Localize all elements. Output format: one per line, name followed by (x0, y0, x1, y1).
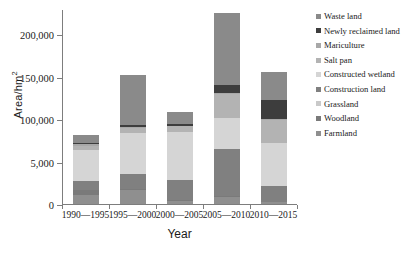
legend-item-label: Woodland (324, 114, 359, 123)
legend-item[interactable]: Farmland (316, 126, 413, 141)
legend-item[interactable]: Construction land (316, 82, 413, 97)
legend-swatch-icon (316, 58, 321, 63)
bar-segment[interactable] (73, 181, 99, 190)
bar-segment[interactable] (120, 75, 146, 125)
legend-item-label: Mariculture (324, 41, 365, 50)
x-axis-tick (203, 205, 204, 209)
bar-segment[interactable] (214, 118, 240, 149)
x-axis-tick-label: 2005—2010 (203, 210, 251, 220)
bar-segment[interactable] (261, 120, 287, 143)
x-axis-title: Year (62, 227, 297, 241)
chart-legend: Waste landNewly reclaimed landMaricultur… (316, 9, 413, 140)
legend-item[interactable]: Grassland (316, 97, 413, 112)
legend-item[interactable]: Salt pan (316, 53, 413, 68)
legend-item-label: Construction land (324, 85, 385, 94)
legend-item[interactable]: Waste land (316, 9, 413, 24)
bar-segment[interactable] (120, 174, 146, 189)
legend-swatch-icon (316, 43, 321, 48)
x-axis-line (62, 204, 297, 205)
y-axis-tick-label: 100,000 (20, 115, 54, 126)
stacked-bar-chart-figure: Area/hm2 05,000100,000150,000200,000 199… (0, 0, 413, 253)
plot-area: 05,000100,000150,000200,000 1990—1995199… (62, 10, 297, 205)
bar-stack[interactable] (120, 75, 146, 204)
y-axis-tick-label: 5,000 (30, 157, 54, 168)
bar-stack[interactable] (73, 135, 99, 204)
x-axis-tick-label: 2010—2015 (250, 210, 298, 220)
bar-segment[interactable] (167, 180, 193, 200)
bar-segment[interactable] (214, 85, 240, 93)
bar-segment[interactable] (261, 143, 287, 186)
y-axis-tick-label: 150,000 (20, 72, 54, 83)
legend-swatch-icon (316, 87, 321, 92)
y-axis-title: Area/hm2 (10, 45, 24, 145)
legend-item-label: Grassland (324, 100, 358, 109)
bar-segment[interactable] (73, 150, 99, 181)
bar-segment[interactable] (167, 132, 193, 179)
x-axis-tick-label: 2000—2005 (156, 210, 204, 220)
x-axis-tick (297, 205, 298, 209)
legend-item-label: Salt pan (324, 56, 352, 65)
legend-swatch-icon (316, 101, 321, 106)
bar-stack[interactable] (167, 112, 193, 204)
x-axis-tick (109, 205, 110, 209)
x-axis-tick (62, 205, 63, 209)
legend-item[interactable]: Mariculture (316, 38, 413, 53)
legend-swatch-icon (316, 116, 321, 121)
x-axis-tick-label: 1990—1995 (62, 210, 110, 220)
y-axis-tick-label: 200,000 (20, 30, 54, 41)
legend-swatch-icon (316, 131, 321, 136)
bar-segment[interactable] (261, 202, 287, 204)
y-axis-title-superscript: 2 (10, 71, 19, 75)
bar-segment[interactable] (120, 190, 146, 204)
bar-segment[interactable] (214, 197, 240, 204)
bar-segment[interactable] (214, 149, 240, 196)
legend-item[interactable]: Constructed wetland (316, 67, 413, 82)
x-axis-tick (156, 205, 157, 209)
legend-swatch-icon (316, 28, 321, 33)
x-axis-tick (250, 205, 251, 209)
y-axis-tick-label: 0 (49, 200, 54, 211)
bar-segment[interactable] (167, 112, 193, 124)
legend-item-label: Farmland (324, 129, 357, 138)
bar-segment[interactable] (261, 186, 287, 202)
bar-segment[interactable] (261, 100, 287, 119)
bar-segment[interactable] (214, 13, 240, 85)
legend-item-label: Waste land (324, 12, 362, 21)
bar-segment[interactable] (120, 133, 146, 174)
bar-segment[interactable] (167, 201, 193, 204)
bar-segment[interactable] (261, 72, 287, 100)
bars-container (62, 10, 297, 204)
legend-item-label: Constructed wetland (324, 70, 395, 79)
bar-stack[interactable] (261, 72, 287, 204)
legend-item-label: Newly reclaimed land (324, 27, 400, 36)
bar-segment[interactable] (214, 94, 240, 117)
legend-item[interactable]: Woodland (316, 111, 413, 126)
x-axis-tick-label: 1995—2000 (109, 210, 157, 220)
bar-segment[interactable] (73, 195, 99, 204)
bar-segment[interactable] (73, 135, 99, 142)
legend-swatch-icon (316, 72, 321, 77)
legend-item[interactable]: Newly reclaimed land (316, 24, 413, 39)
bar-stack[interactable] (214, 13, 240, 204)
legend-swatch-icon (316, 14, 321, 19)
